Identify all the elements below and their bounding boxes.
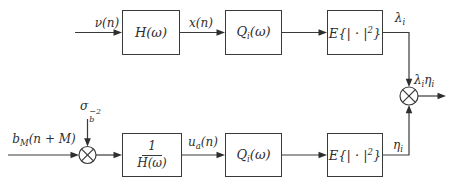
eta-subscript: i [400, 144, 403, 154]
sigma-subscript: b [89, 116, 94, 124]
q-base: Q [236, 24, 247, 39]
arrowhead-icon [114, 29, 123, 36]
wire-multiplier-left-to-inv-h [96, 152, 122, 159]
signal-label-nu: ν(n) [92, 17, 122, 30]
output-eta-base: η [424, 73, 431, 87]
block-q-bottom-label: Qi(ω) [236, 147, 270, 164]
e-post: } [373, 148, 381, 163]
fraction-numerator: 1 [142, 140, 162, 156]
sigma-scripts: −2b [89, 108, 101, 125]
signal-label-b: bM(n + M) [12, 133, 76, 147]
block-q-top-label: Qi(ω) [236, 24, 270, 41]
block-e-top: E{| · |2} [327, 10, 383, 55]
block-q-bottom: Qi(ω) [225, 133, 282, 177]
lambda-subscript: i [402, 17, 405, 27]
arrowhead-icon [217, 29, 226, 36]
signal-label-eta: ηi [389, 139, 407, 153]
q-rest: (ω) [250, 147, 271, 162]
e-pre: E{| · | [329, 148, 368, 163]
block-e-bottom: E{| · |2} [327, 133, 383, 177]
fraction-denominator: H(ω) [137, 156, 167, 171]
arrowhead-icon [84, 138, 91, 146]
wire-inv-h-to-q-bottom [182, 152, 225, 159]
wire-q-to-e-top [282, 29, 327, 36]
multiplier-left-icon [79, 147, 96, 164]
e-post: } [373, 25, 381, 40]
b-base: b [12, 132, 20, 146]
block-e-top-label: E{| · |2} [329, 25, 382, 41]
b-rest: (n + M) [29, 132, 76, 146]
wire-nu-to-h [75, 29, 122, 36]
block-q-top: Qi(ω) [225, 10, 282, 55]
signal-label-output: λiηi [414, 74, 434, 88]
wire-lambda-to-multiplier [383, 33, 412, 88]
block-e-bottom-label: E{| · |2} [329, 147, 382, 163]
sigma-base: σ [80, 99, 88, 113]
wire-b-to-multiplier-left [8, 152, 79, 159]
signal-label-lambda: λi [390, 12, 410, 26]
wire-h-to-q-top [180, 29, 225, 36]
e-pre: E{| · | [329, 25, 368, 40]
q-rest: (ω) [250, 24, 271, 39]
u-rest: (n) [201, 135, 218, 149]
output-lambda-base: λ [414, 73, 422, 87]
wire-q-to-e-bottom [282, 152, 327, 159]
multiplier-right-icon [400, 87, 418, 105]
block-h-label: H(ω) [135, 25, 167, 40]
arrowhead-icon [438, 93, 447, 100]
block-inverse-h: 1 H(ω) [122, 133, 182, 177]
arrowhead-icon [319, 29, 328, 36]
output-eta-subscript: i [432, 79, 435, 89]
arrowhead-icon [319, 152, 328, 159]
arrowhead-icon [406, 79, 413, 87]
wire-output [418, 93, 446, 100]
inverse-h-fraction: 1 H(ω) [137, 140, 167, 171]
signal-label-x: x(n) [184, 17, 218, 30]
u-base: u [188, 135, 196, 149]
signal-label-u: ua(n) [185, 136, 221, 150]
q-base: Q [236, 147, 247, 162]
b-subscript: M [20, 138, 29, 148]
arrowhead-icon [217, 152, 226, 159]
arrowhead-icon [71, 152, 80, 159]
arrowhead-icon [406, 105, 413, 113]
block-diagram: H(ω) Qi(ω) E{| · |2} 1 H(ω) Qi(ω) E{| · … [0, 0, 469, 188]
signal-label-sigma: σ−2b [80, 100, 101, 125]
arrowhead-icon [114, 152, 123, 159]
block-h: H(ω) [122, 10, 180, 55]
